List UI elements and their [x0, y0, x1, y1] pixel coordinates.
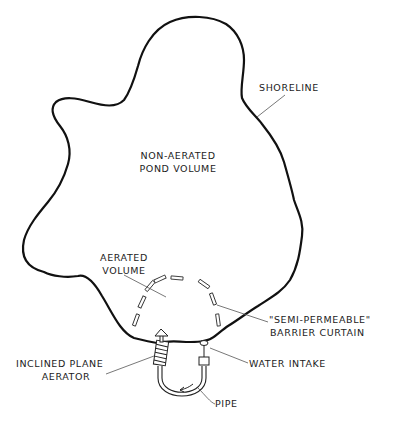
shoreline-label: SHORELINE — [259, 82, 319, 94]
inclined-plane-aerator-icon — [153, 329, 168, 366]
barrier-curtain — [132, 275, 220, 326]
non-aerated-volume-label-line2: POND VOLUME — [124, 163, 232, 175]
aerated-volume-label-line2: VOLUME — [86, 265, 162, 277]
barrier-curtain-label-line2: BARRIER CURTAIN — [270, 327, 365, 339]
water-intake-label: WATER INTAKE — [249, 358, 326, 370]
aerator-label-line1: INCLINED PLANE — [16, 358, 103, 370]
aerated-volume-label-line1: AERATED — [86, 252, 162, 264]
barrier-curtain-label-line1: "SEMI-PERMEABLE" — [269, 314, 371, 326]
shoreline-path — [23, 17, 302, 343]
pipe-label: PIPE — [215, 398, 238, 410]
non-aerated-volume-label-line1: NON-AERATED — [128, 150, 228, 162]
water-intake-icon — [199, 341, 209, 366]
aerator-label-line2: AERATOR — [16, 371, 116, 383]
